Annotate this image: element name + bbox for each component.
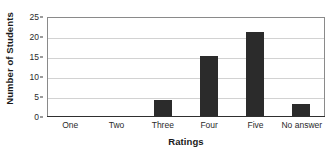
x-axis-tick-label: Three — [140, 120, 186, 130]
bar-chart-figure: Number of Students 0510152025 OneTwoThre… — [0, 0, 335, 154]
y-axis-tick-mark — [40, 97, 43, 98]
y-axis-tick-label: 0 — [34, 112, 39, 122]
x-axis-tick-label: Four — [186, 120, 232, 130]
y-axis-tick-mark — [40, 117, 43, 118]
y-axis-title: Number of Students — [0, 0, 18, 117]
x-axis-line — [47, 116, 325, 117]
plot-area — [47, 17, 325, 117]
x-axis-title: Ratings — [47, 136, 325, 147]
x-axis-tick-label: Two — [93, 120, 139, 130]
bar — [200, 56, 218, 116]
x-axis-tick-label: One — [47, 120, 93, 130]
y-axis-tick-label: 20 — [30, 32, 39, 42]
y-axis-tick-label: 15 — [30, 52, 39, 62]
x-axis-tick-label: No answer — [279, 120, 325, 130]
bar-slot — [140, 18, 186, 116]
bar-series — [48, 18, 324, 116]
bar-slot — [232, 18, 278, 116]
bar — [246, 32, 264, 116]
y-axis-tick-label: 25 — [30, 12, 39, 22]
y-axis-tick-label: 10 — [30, 72, 39, 82]
y-axis-tick-label: 5 — [34, 92, 39, 102]
bar — [154, 100, 172, 116]
x-axis-tick-labels: OneTwoThreeFourFiveNo answer — [47, 120, 325, 130]
y-axis-tick-mark — [40, 17, 43, 18]
bar-slot — [48, 18, 94, 116]
y-axis-tick-mark — [40, 77, 43, 78]
y-axis-tick-mark — [40, 37, 43, 38]
y-axis-title-text: Number of Students — [4, 12, 15, 105]
x-axis-tick-label: Five — [232, 120, 278, 130]
y-axis-tick-labels: 0510152025 — [22, 17, 43, 117]
bar — [292, 104, 310, 116]
bar-slot — [186, 18, 232, 116]
bar-slot — [94, 18, 140, 116]
bar-slot — [278, 18, 324, 116]
y-axis-tick-mark — [40, 57, 43, 58]
